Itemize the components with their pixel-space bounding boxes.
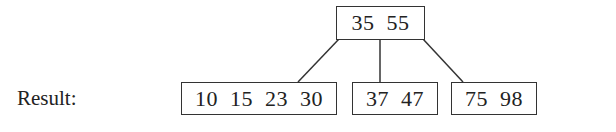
child-node-2: 37 47: [352, 82, 438, 115]
root-node: 35 55: [336, 6, 425, 40]
child-node-3: 75 98: [451, 82, 537, 115]
result-label: Result:: [17, 86, 77, 110]
child-node-1: 10 15 23 30: [181, 82, 337, 115]
edge-root-child-1: [298, 39, 339, 82]
edge-root-child-3: [423, 39, 463, 82]
